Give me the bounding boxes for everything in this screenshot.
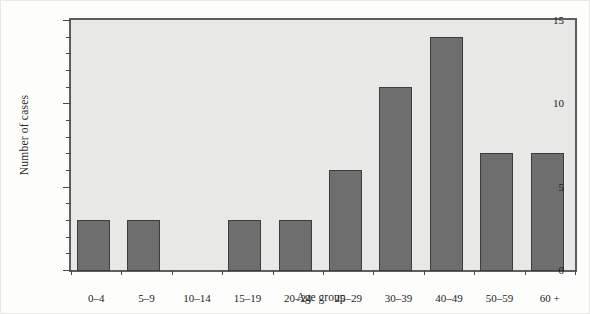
bar-slot	[222, 20, 272, 270]
bar-slot	[373, 20, 423, 270]
bar-slot	[121, 20, 171, 270]
y-axis-minor-tick	[66, 120, 71, 121]
bar-slot	[323, 20, 373, 270]
x-axis-tick	[71, 270, 72, 275]
y-axis-minor-tick	[66, 87, 71, 88]
y-axis-title-text: Number of cases	[18, 95, 30, 175]
bar-slot	[525, 20, 575, 270]
y-axis-minor-tick	[66, 70, 71, 71]
bar	[379, 87, 412, 271]
x-axis-tick	[273, 270, 274, 275]
bar-slot	[71, 20, 121, 270]
bar	[329, 170, 362, 271]
x-axis-tick	[121, 270, 122, 275]
y-axis-tick	[63, 270, 71, 271]
y-axis-tick-label: 10	[553, 97, 564, 109]
y-axis-tick-label: 5	[559, 181, 565, 193]
y-axis-tick	[63, 103, 71, 104]
bar-slot	[172, 20, 222, 270]
bar	[228, 220, 261, 271]
bar	[430, 37, 463, 271]
x-axis-tick	[424, 270, 425, 275]
y-axis-minor-tick	[66, 153, 71, 154]
y-axis-minor-tick	[66, 53, 71, 54]
bar-slot	[424, 20, 474, 270]
x-axis-tick	[222, 270, 223, 275]
bar-slot	[474, 20, 524, 270]
y-axis-minor-tick	[66, 137, 71, 138]
y-axis-minor-tick	[66, 253, 71, 254]
x-axis-title: Age group	[69, 291, 573, 303]
bar-series	[71, 20, 575, 270]
x-axis-tick	[323, 270, 324, 275]
x-axis-tick	[373, 270, 374, 275]
x-axis-tick	[575, 270, 576, 275]
chart-figure: Number of cases 0510150–45–910–1415–1920…	[0, 0, 590, 314]
bar	[531, 153, 564, 271]
bar	[127, 220, 160, 271]
bar	[480, 153, 513, 271]
y-axis-tick-label: 0	[559, 264, 565, 276]
y-axis-minor-tick	[66, 170, 71, 171]
plot-area: 0510150–45–910–1415–1920–2425–2930–3940–…	[69, 18, 577, 272]
y-axis-tick	[63, 20, 71, 21]
y-axis-minor-tick	[66, 203, 71, 204]
bar	[77, 220, 110, 271]
y-axis-title: Number of cases	[15, 1, 33, 269]
y-axis-minor-tick	[66, 237, 71, 238]
y-axis-tick-label: 15	[553, 14, 564, 26]
bar	[279, 220, 312, 271]
bar-slot	[273, 20, 323, 270]
x-axis-tick	[172, 270, 173, 275]
y-axis-minor-tick	[66, 37, 71, 38]
x-axis-tick	[525, 270, 526, 275]
y-axis-minor-tick	[66, 220, 71, 221]
x-axis-tick	[474, 270, 475, 275]
y-axis-tick	[63, 187, 71, 188]
